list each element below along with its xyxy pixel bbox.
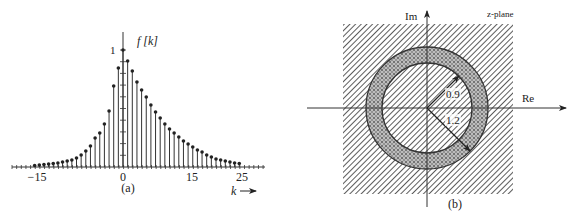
stem-marker — [177, 135, 181, 139]
stem-marker — [61, 160, 65, 164]
stem-marker — [84, 149, 88, 153]
stem-marker — [112, 84, 116, 88]
stem-marker — [56, 161, 60, 165]
stems — [33, 48, 241, 167]
stem-marker — [79, 153, 83, 157]
inner-radius-label: 0.9 — [446, 88, 460, 100]
stem-marker — [126, 59, 130, 63]
stem-marker — [135, 80, 139, 84]
stem-marker — [228, 160, 232, 164]
k-tick-label: 25 — [236, 170, 248, 184]
stem-marker — [163, 122, 167, 126]
stem-marker — [186, 142, 190, 146]
caption-b: (b) — [448, 197, 462, 211]
stem-marker — [38, 163, 42, 167]
stem-marker — [154, 110, 158, 114]
stem-plot: f [k] 1 −1501525 (a) k — [12, 32, 265, 198]
real-axis-label: Re — [522, 92, 534, 104]
stem-marker — [65, 159, 69, 163]
stem-marker — [168, 127, 172, 131]
stem-marker — [33, 164, 37, 168]
stem-marker — [196, 148, 200, 152]
stem-marker — [214, 157, 218, 161]
stem-marker — [93, 136, 97, 140]
stem-marker — [75, 156, 79, 160]
y-tick-label-1: 1 — [110, 44, 116, 56]
stem-marker — [149, 103, 153, 107]
stem-marker — [172, 131, 176, 135]
stem-marker — [144, 95, 148, 99]
stem-marker — [47, 162, 51, 166]
k-axis-label: k — [231, 184, 237, 198]
stem-marker — [233, 161, 237, 165]
stem-marker — [224, 159, 228, 163]
imaginary-axis-label: Im — [405, 10, 418, 22]
stem-marker — [98, 131, 102, 135]
y-axis-label: f [k] — [137, 34, 158, 48]
stem-marker — [140, 88, 144, 92]
stem-marker — [131, 69, 135, 73]
stem-marker — [70, 158, 74, 162]
k-tick-label: 15 — [186, 170, 198, 184]
k-tick-label: −15 — [28, 170, 47, 184]
stem-marker — [89, 144, 93, 148]
caption-a: (a) — [121, 181, 134, 195]
figure-canvas: f [k] 1 −1501525 (a) k 0.9 1.2 Im Re z-p… — [0, 0, 577, 222]
stem-marker — [51, 162, 55, 166]
stem-marker — [182, 139, 186, 143]
stem-marker — [158, 116, 162, 120]
stem-marker — [117, 66, 121, 70]
z-plane-diagram: 0.9 1.2 Im Re z-plane (b) — [307, 9, 566, 211]
stem-marker — [205, 153, 209, 157]
stem-marker — [107, 109, 111, 113]
stem-marker — [210, 155, 214, 159]
outer-radius-label: 1.2 — [446, 114, 460, 126]
stem-marker — [200, 150, 204, 154]
stem-marker — [121, 48, 125, 52]
stem-marker — [42, 163, 46, 167]
stem-marker — [103, 122, 107, 126]
k-tick-labels: −1501525 — [28, 170, 248, 184]
stem-marker — [237, 162, 241, 166]
z-plane-label: z-plane — [487, 9, 513, 19]
stem-marker — [219, 158, 223, 162]
stem-marker — [191, 145, 195, 149]
